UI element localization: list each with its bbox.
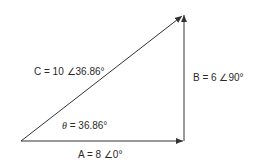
theta-value: = 36.86° xyxy=(67,120,107,131)
vector-a-label: A = 8 ∠0° xyxy=(78,149,122,161)
vector-b-label: B = 6 ∠90° xyxy=(193,72,244,84)
vector-c-label: C = 10 ∠36.86° xyxy=(34,66,105,78)
angle-theta-label: θ = 36.86° xyxy=(62,120,107,132)
phasor-diagram: C = 10 ∠36.86° B = 6 ∠90° θ = 36.86° A =… xyxy=(0,0,257,165)
